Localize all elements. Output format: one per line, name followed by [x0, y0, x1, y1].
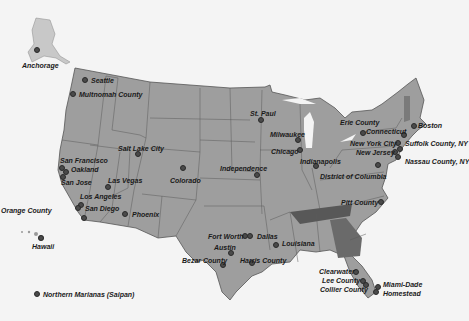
location-label: District of Columbia	[320, 173, 387, 181]
location-label: Boston	[418, 122, 442, 130]
vermont-shape	[404, 96, 410, 122]
location-label: Salt Lake City	[118, 145, 164, 153]
location-label: Fort Worth	[208, 233, 244, 241]
location-label: Pitt County	[341, 199, 378, 207]
location-label: Northern Marianas (Saipan)	[43, 291, 134, 299]
location-marker-icon[interactable]	[122, 211, 128, 217]
location-marker-icon[interactable]	[378, 199, 384, 205]
location-label: Seattle	[91, 77, 114, 85]
location-marker-icon[interactable]	[247, 233, 253, 239]
location-label: Oakland	[71, 166, 99, 174]
location-marker-icon[interactable]	[70, 91, 76, 97]
location-label: Connecticut	[366, 128, 406, 136]
location-marker-icon[interactable]	[75, 205, 81, 211]
location-label: Bezar County	[182, 257, 227, 265]
location-marker-icon[interactable]	[373, 289, 379, 295]
location-label: Dallas	[257, 233, 278, 241]
location-label: Harris County	[240, 257, 286, 265]
location-label: Austin	[214, 244, 236, 252]
location-label: San Jose	[61, 179, 92, 187]
location-marker-icon[interactable]	[38, 235, 44, 241]
location-label: Nassau County, NY	[405, 158, 469, 166]
location-label: Clearwater	[319, 268, 355, 276]
location-marker-icon[interactable]	[34, 291, 40, 297]
location-label: Indianapolis	[300, 158, 341, 166]
location-label: Miami-Dade	[383, 281, 422, 289]
location-label: Las Vegas	[108, 177, 142, 185]
location-label: New Jersey	[356, 149, 395, 157]
location-label: Phoenix	[132, 211, 159, 219]
location-marker-icon[interactable]	[180, 165, 186, 171]
location-label: Suffolk County, NY	[405, 140, 468, 148]
location-marker-icon[interactable]	[411, 123, 417, 129]
location-label: Collier County	[320, 286, 368, 294]
location-label: Hawaii	[32, 243, 54, 251]
location-label: Orange County	[1, 207, 52, 215]
alaska-shape	[28, 18, 70, 64]
location-label: Chicago	[271, 148, 299, 156]
location-marker-icon[interactable]	[81, 215, 87, 221]
location-label: Multnomah County	[79, 91, 142, 99]
location-marker-icon[interactable]	[34, 47, 40, 53]
location-label: St. Paul	[250, 110, 276, 118]
location-marker-icon[interactable]	[82, 77, 88, 83]
location-label: San Francisco	[60, 157, 108, 165]
location-label: Milwaukee	[270, 131, 305, 139]
location-label: San Diego	[85, 205, 119, 213]
location-marker-icon[interactable]	[273, 242, 279, 248]
location-label: Louisiana	[282, 240, 315, 248]
location-label: Los Angeles	[80, 193, 121, 201]
location-label: Lee County	[322, 277, 360, 285]
location-label: Erie County	[340, 119, 379, 127]
location-label: Colorado	[170, 177, 201, 185]
location-marker-icon[interactable]	[395, 154, 401, 160]
location-label: Anchorage	[22, 62, 59, 70]
location-label: Independence	[220, 165, 267, 173]
location-label: Homestead	[383, 290, 421, 298]
location-label: New York City	[350, 140, 397, 148]
location-marker-icon[interactable]	[375, 162, 381, 168]
